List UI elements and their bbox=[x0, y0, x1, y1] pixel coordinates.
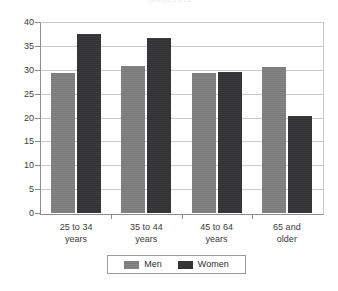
x-axis-label-line: 65 and bbox=[252, 221, 322, 233]
y-axis-tick-mark bbox=[35, 22, 40, 23]
y-axis-tick-label: 15 bbox=[8, 137, 34, 146]
y-axis-tick-label: 25 bbox=[8, 90, 34, 99]
x-axis-label-line: older bbox=[252, 233, 322, 245]
bar-men[interactable] bbox=[262, 67, 286, 213]
x-axis-label-line: years bbox=[182, 233, 252, 245]
bar-women[interactable] bbox=[77, 34, 101, 213]
y-axis-tick-label: 20 bbox=[8, 114, 34, 123]
bar-women[interactable] bbox=[288, 116, 312, 213]
chart-title: Group, 2011 bbox=[0, 0, 338, 5]
y-axis-tick-mark bbox=[35, 46, 40, 47]
legend-item-men[interactable]: Men bbox=[124, 260, 162, 269]
x-axis-label: 35 to 44years bbox=[111, 221, 181, 245]
legend-label-men: Men bbox=[144, 260, 162, 269]
y-axis-tick-label: 30 bbox=[8, 66, 34, 75]
x-axis-labels: 25 to 34years35 to 44years45 to 64years6… bbox=[41, 221, 322, 247]
bar-women[interactable] bbox=[218, 72, 242, 213]
x-axis-label: 65 andolder bbox=[252, 221, 322, 245]
y-axis-tick-label: 40 bbox=[8, 18, 34, 27]
legend-swatch-men-icon bbox=[124, 261, 139, 269]
bars-layer bbox=[41, 22, 322, 213]
bar-men[interactable] bbox=[192, 73, 216, 213]
legend-swatch-women-icon bbox=[178, 261, 193, 269]
x-axis-label-line: 45 to 64 bbox=[182, 221, 252, 233]
bar-men[interactable] bbox=[51, 73, 75, 213]
bar-men[interactable] bbox=[121, 66, 145, 213]
bar-group bbox=[252, 22, 322, 213]
x-axis-separator bbox=[111, 214, 112, 219]
bar-women[interactable] bbox=[147, 38, 171, 213]
y-axis-tick-mark bbox=[35, 70, 40, 71]
y-axis-tick-label: 10 bbox=[8, 161, 34, 170]
bar-group bbox=[111, 22, 181, 213]
x-axis-label: 45 to 64years bbox=[182, 221, 252, 245]
x-axis-separator bbox=[182, 214, 183, 219]
x-axis-label-line: 35 to 44 bbox=[111, 221, 181, 233]
chart-legend: Men Women bbox=[107, 255, 246, 274]
x-axis-label: 25 to 34years bbox=[41, 221, 111, 245]
y-axis-tick-mark bbox=[35, 189, 40, 190]
bar-group bbox=[182, 22, 252, 213]
x-axis-label-line: 25 to 34 bbox=[41, 221, 111, 233]
y-axis-tick-mark bbox=[35, 94, 40, 95]
y-axis-tick-mark bbox=[35, 165, 40, 166]
y-axis-tick-label: 0 bbox=[8, 209, 34, 218]
x-axis-label-line: years bbox=[41, 233, 111, 245]
x-axis-separator bbox=[252, 214, 253, 219]
bar-chart: Group, 2011 0510152025303540 25 to 34yea… bbox=[0, 0, 338, 291]
x-axis-label-line: years bbox=[111, 233, 181, 245]
y-axis-tick-label: 35 bbox=[8, 42, 34, 51]
y-axis-tick-mark bbox=[35, 213, 40, 214]
y-axis-tick-mark bbox=[35, 141, 40, 142]
y-axis-tick-mark bbox=[35, 118, 40, 119]
bar-group bbox=[41, 22, 111, 213]
legend-item-women[interactable]: Women bbox=[178, 260, 229, 269]
legend-label-women: Women bbox=[198, 260, 229, 269]
y-axis-tick-label: 5 bbox=[8, 185, 34, 194]
